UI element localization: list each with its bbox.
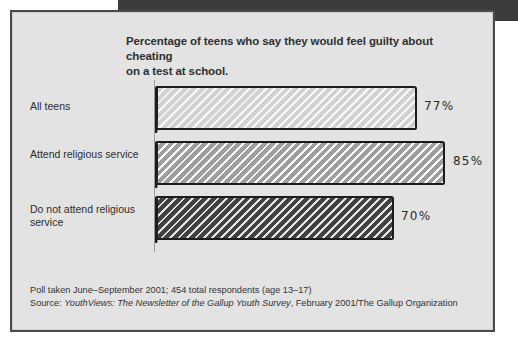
footnote-poll-info: Poll taken June–September 2001; 454 tota… [30, 284, 480, 297]
chart-title: Percentage of teens who say they would f… [126, 34, 476, 79]
bar-value-do-not-attend-religious-service: 70% [401, 209, 431, 223]
footnote-divider [26, 278, 481, 279]
footnote-source-prefix: Source: [30, 298, 64, 308]
bar-attend-religious-service [155, 141, 445, 185]
bar-row: All teens 77% [12, 86, 497, 130]
category-label-attend-religious-service: Attend religious service [30, 148, 146, 161]
footnote-source: Source: YouthViews: The Newsletter of th… [30, 297, 480, 310]
header-band-title: GUILT AND PERCEPTIONS OF RELIGIOUS SERVI… [126, 0, 516, 1]
footnote-source-publication: YouthViews: The Newsletter of the Gallup… [64, 298, 290, 308]
bar-value-all-teens: 77% [424, 99, 454, 113]
footnotes: Poll taken June–September 2001; 454 tota… [30, 284, 480, 309]
chart-screenshot: GUILT AND PERCEPTIONS OF RELIGIOUS SERVI… [0, 0, 518, 349]
plot-area: All teens 77% Attend religious service 8… [12, 74, 497, 264]
bar-row: Do not attend religious service 70% [12, 196, 497, 240]
figure-panel: Percentage of teens who say they would f… [10, 10, 495, 332]
bar-do-not-attend-religious-service [155, 196, 394, 240]
bar-all-teens [155, 86, 417, 130]
category-label-do-not-attend-religious-service: Do not attend religious service [30, 203, 146, 229]
chart-title-line-1: Percentage of teens who say they would f… [126, 34, 476, 64]
category-label-all-teens: All teens [30, 100, 146, 113]
bar-row: Attend religious service 85% [12, 141, 497, 185]
footnote-source-suffix: , February 2001/The Gallup Organization [291, 298, 458, 308]
bar-value-attend-religious-service: 85% [453, 154, 483, 168]
